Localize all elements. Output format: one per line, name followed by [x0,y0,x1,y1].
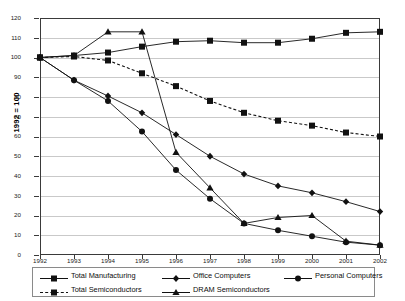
series-line [40,57,380,137]
data-point-marker [104,28,111,34]
data-point-marker [105,50,111,56]
data-point-marker [343,239,349,245]
data-point-marker [309,189,315,196]
data-point-marker [71,77,77,83]
data-point-marker [51,290,57,296]
data-point-marker [241,110,247,116]
series-line [40,32,380,58]
legend-item-total-semiconductors[interactable]: Total Semiconductors [39,282,142,297]
legend-label: Total Manufacturing [69,271,136,280]
data-point-marker [138,28,145,34]
legend-marker-square-icon [39,284,69,295]
legend-item-office-computers[interactable]: Office Computers [161,268,250,283]
data-point-marker [173,275,179,282]
legend-marker-square-icon [39,270,69,281]
data-point-marker [343,30,349,36]
data-point-marker [295,276,301,282]
data-point-marker [275,182,281,189]
data-point-marker [139,70,145,76]
legend-item-personal-computers[interactable]: Personal Computers [283,268,382,283]
legend-marker-diamond-icon [161,270,191,281]
data-point-marker [275,118,281,124]
data-point-marker [173,39,179,45]
legend-row: Total SemiconductorsDRAM Semiconductors [33,282,374,297]
line-chart: 1992 = 100 0102030405060708090100110120 … [0,0,405,301]
data-point-marker [241,171,247,178]
legend-marker-circle-icon [283,270,313,281]
data-point-marker [139,109,145,116]
data-point-marker [173,83,179,89]
data-point-marker [309,233,315,239]
data-point-marker [308,212,315,218]
data-point-marker [207,196,213,202]
legend-label: Personal Computers [313,271,382,280]
data-point-marker [309,36,315,42]
series-office-computers [37,54,383,215]
data-point-marker [51,276,57,282]
data-point-marker [207,153,213,160]
legend-row: Total ManufacturingOffice ComputersPerso… [33,268,374,283]
data-point-marker [343,130,349,136]
series-line [40,58,380,246]
data-point-marker [377,208,383,215]
data-point-marker [377,29,383,35]
legend-label: DRAM Semiconductors [191,285,270,294]
series-total-semiconductors [37,54,383,140]
data-point-marker [105,98,111,104]
data-point-marker [377,242,383,248]
legend-marker-triangle-icon [161,284,191,295]
data-point-marker [172,149,179,155]
data-point-marker [105,57,111,63]
series-layer [0,0,405,301]
data-point-marker [173,167,179,173]
data-point-marker [173,131,179,138]
data-point-marker [275,40,281,46]
legend-label: Total Semiconductors [69,285,142,294]
data-point-marker [275,227,281,233]
data-point-marker [343,198,349,205]
series-line [40,32,380,245]
data-point-marker [377,134,383,140]
data-point-marker [241,220,247,226]
data-point-marker [139,44,145,50]
data-point-marker [37,55,43,61]
legend-item-dram-semiconductors[interactable]: DRAM Semiconductors [161,282,270,297]
series-dram-semiconductors [36,28,383,248]
data-point-marker [309,123,315,129]
data-point-marker [139,129,145,135]
data-point-marker [207,38,213,44]
chart-legend: Total ManufacturingOffice ComputersPerso… [32,267,375,297]
legend-label: Office Computers [191,271,250,280]
legend-item-total-manufacturing[interactable]: Total Manufacturing [39,268,136,283]
series-personal-computers [37,55,383,249]
data-point-marker [241,40,247,46]
data-point-marker [207,98,213,104]
